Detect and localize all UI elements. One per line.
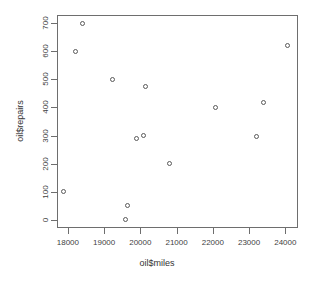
x-tick-label-text: 21000 — [165, 238, 187, 247]
x-tick-mark — [213, 228, 214, 234]
x-tick-label-text: 20000 — [129, 238, 151, 247]
x-tick-mark — [140, 228, 141, 234]
y-tick-mark — [51, 164, 57, 165]
x-tick-label-text: 24000 — [274, 238, 296, 247]
x-tick-label-text: 23000 — [238, 238, 260, 247]
y-tick-label-text: 100 — [41, 185, 50, 198]
x-tick-mark — [285, 228, 286, 234]
y-tick-label-text: 700 — [41, 17, 50, 30]
x-tick-mark — [104, 228, 105, 234]
y-tick-mark — [51, 136, 57, 137]
y-tick-label-text: 500 — [41, 73, 50, 86]
scatter-plot-figure: 0100200300400500600700 18000190002000021… — [0, 0, 314, 285]
y-tick-mark — [51, 23, 57, 24]
y-tick-label-text: 400 — [41, 101, 50, 114]
x-tick-label-text: 22000 — [202, 238, 224, 247]
y-tick-label-text: 200 — [41, 157, 50, 170]
plot-frame — [57, 15, 298, 228]
x-tick-label-text: 19000 — [93, 238, 115, 247]
y-tick-label-text: 0 — [41, 217, 50, 221]
y-tick-mark — [51, 192, 57, 193]
x-tick-label-text: 18000 — [57, 238, 79, 247]
x-tick-mark — [249, 228, 250, 234]
x-axis-label: oil$miles — [0, 258, 314, 268]
x-tick-mark — [68, 228, 69, 234]
y-tick-mark — [51, 220, 57, 221]
y-axis-label-text: oil$repairs — [15, 100, 25, 142]
y-tick-label-text: 600 — [41, 45, 50, 58]
y-tick-mark — [51, 107, 57, 108]
y-tick-label-text: 300 — [41, 129, 50, 142]
y-tick-mark — [51, 51, 57, 52]
x-tick-mark — [177, 228, 178, 234]
y-tick-mark — [51, 79, 57, 80]
